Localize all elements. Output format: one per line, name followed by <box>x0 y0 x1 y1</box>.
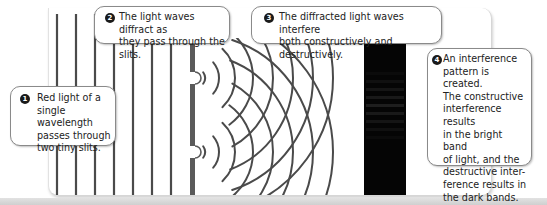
callout-text: The diffracted light waves interfere bot… <box>279 11 437 61</box>
step-number-badge: 3 <box>264 13 274 23</box>
callout-3-interference: 3 The diffracted light waves interfere b… <box>251 6 442 44</box>
callout-4-pattern: 4 An interference pattern is created. Th… <box>427 48 532 166</box>
step-number-badge: 1 <box>20 94 30 104</box>
slit-barrier <box>190 38 201 195</box>
step-number-badge: 4 <box>432 55 442 65</box>
callout-text: The light waves diffract as they pass th… <box>119 11 225 61</box>
interference-pattern-screen <box>364 38 406 195</box>
callout-text: Red light of a single wavelength passes … <box>37 92 111 155</box>
callout-1-red-light: 1 Red light of a single wavelength passe… <box>10 86 116 146</box>
callout-text: An interference pattern is created. The … <box>443 53 527 204</box>
step-number-badge: 2 <box>105 13 115 23</box>
callout-2-diffraction: 2 The light waves diffract as they pass … <box>94 6 230 44</box>
